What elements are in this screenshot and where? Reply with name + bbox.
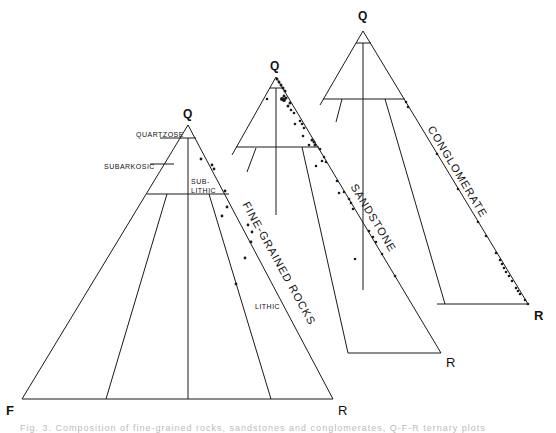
fine-grained-right-label: R	[338, 404, 347, 417]
conglomerate-right-label: R	[534, 309, 543, 322]
conglomerate-triangle	[320, 31, 528, 304]
conglomerate-apex-label: Q	[358, 10, 367, 22]
sandstone-apex-label: Q	[270, 60, 279, 72]
figure-caption: Fig. 3. Composition of fine-grained rock…	[20, 424, 486, 433]
fine-grained-triangle	[22, 125, 333, 399]
sandstone-right-label: R	[446, 356, 455, 369]
fine-grained-left-label: F	[6, 404, 14, 417]
fine-grained-apex-label: Q	[183, 108, 192, 120]
subarkosic-label: SUBARKOSIC	[104, 163, 155, 170]
sublithic-label-1: SUB-	[191, 178, 210, 185]
quartzose-label: QUARTZOSE	[136, 131, 184, 138]
lithic-label: LITHIC	[255, 303, 280, 310]
sublithic-label-2: LITHIC	[191, 187, 216, 194]
